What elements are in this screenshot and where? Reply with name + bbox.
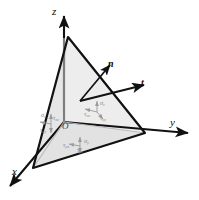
stress-label-tau-yx: τyx — [63, 142, 69, 148]
z-axis-label: z — [52, 6, 56, 17]
stress-label-sigma-x: σx — [41, 112, 46, 118]
x-axis-label: x — [12, 166, 17, 177]
stress-label-tau-xy: τxy — [40, 127, 46, 133]
stress-label-sigma-y: σy — [84, 138, 89, 144]
stress-label-sigma-z: σz — [100, 100, 105, 106]
traction-vector-label: t — [141, 78, 144, 88]
stress-label-tau-zx: τzx — [84, 111, 90, 117]
normal-vector-label: n — [108, 59, 114, 69]
stress-label-tau-zy: τzy — [100, 115, 106, 121]
stress-tetrahedron-figure: z y x O n t σz τzx τzy σx τxz τxy σy τyz… — [0, 0, 199, 200]
y-axis-label: y — [170, 117, 175, 128]
origin-label: O — [62, 122, 69, 131]
stress-label-tau-yz: τyz — [77, 147, 83, 153]
stress-label-tau-xz: τxz — [53, 115, 59, 121]
